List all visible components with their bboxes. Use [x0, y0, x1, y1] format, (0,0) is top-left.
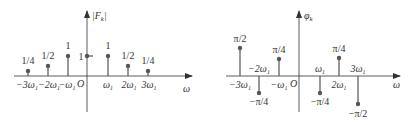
tick-label: −2ω1 — [248, 63, 270, 75]
tick-label: 2ω1 — [121, 79, 136, 91]
value-label: 1/2 — [122, 50, 135, 61]
tick-label: 3ω1 — [140, 79, 156, 91]
value-label: π/4 — [333, 43, 346, 54]
x-axis-label: ω — [183, 83, 190, 94]
value-label: 1 — [79, 51, 84, 62]
tick-label: −2ω1 — [38, 79, 60, 91]
spectrum-figure: |Fk| ω O 1/4 1/2 1 1 1 1/2 1/4 — [0, 0, 414, 125]
tick-label: ω1 — [315, 63, 325, 75]
value-label: 1/4 — [22, 55, 35, 66]
origin-label: O — [77, 78, 84, 89]
tick-label: −3ω1 — [16, 79, 38, 91]
value-label: 1 — [106, 40, 111, 51]
value-label: −π/4 — [311, 96, 329, 107]
tick-label: 2ω1 — [331, 79, 346, 91]
value-label: −π/4 — [250, 96, 268, 107]
value-label: 1/4 — [142, 55, 155, 66]
tick-label: −ω1 — [271, 79, 288, 91]
x-axis-label: ω — [393, 79, 400, 90]
value-label: 1/2 — [42, 50, 55, 61]
y-axis-label: |Fk| — [92, 10, 107, 23]
value-label: π/4 — [273, 44, 286, 55]
tick-label: −3ω1 — [229, 79, 251, 91]
phase-spectrum-chart: φk ω O π/2 −π/4 π/4 −π/4 π/4 −π/2 −3ω1 −… — [226, 10, 400, 119]
tick-label: 3ω1 — [349, 63, 365, 75]
tick-label: −ω1 — [59, 79, 76, 91]
value-label: π/2 — [234, 33, 247, 44]
y-axis-label: φk — [304, 10, 314, 23]
tick-label: ω1 — [103, 79, 113, 91]
amplitude-spectrum-chart: |Fk| ω O 1/4 1/2 1 1 1 1/2 1/4 — [14, 10, 192, 112]
value-label: −π/2 — [349, 108, 367, 119]
value-label: 1 — [66, 40, 71, 51]
origin-label: O — [290, 78, 297, 89]
